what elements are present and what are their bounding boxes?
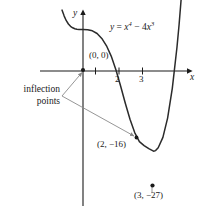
equation-equals: =	[117, 22, 122, 32]
y-axis-label: y	[73, 8, 77, 19]
x-axis-label: x	[190, 72, 194, 83]
inflection-points-figure: y = x4 − 4x3 y x 2 3 (0, 0) (2, −16) (3,…	[0, 0, 202, 216]
marker-point-2	[135, 136, 139, 140]
equation-term1-exponent: 4	[129, 20, 132, 27]
marker-origin	[81, 68, 85, 72]
marker-point-3	[150, 183, 154, 187]
origin-point-label: (0, 0)	[89, 50, 109, 60]
inflection-points-caption: inflection points	[2, 84, 60, 107]
x-tick-label-2: 2	[115, 74, 120, 84]
equation-minus: −	[134, 22, 139, 32]
inflection-caption-line-1: inflection	[2, 84, 60, 96]
minimum-point-label: (3, −27)	[134, 190, 163, 200]
inflection-caption-line-2: points	[2, 96, 60, 108]
leader-line-origin	[62, 73, 82, 97]
equation-label: y = x4 − 4x3	[110, 20, 154, 33]
x-tick-label-3: 3	[139, 74, 144, 84]
equation-term2-exponent: 3	[151, 20, 154, 27]
equation-lhs: y	[110, 22, 114, 32]
inflection-point-2-label: (2, −16)	[97, 139, 126, 149]
leader-line-point-2	[62, 96, 134, 136]
figure-canvas	[0, 0, 202, 216]
